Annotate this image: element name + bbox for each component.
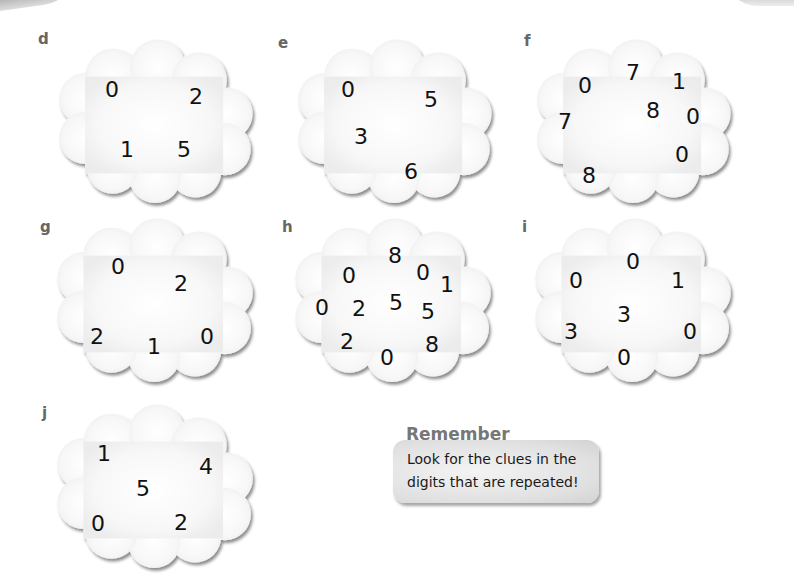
digit: 2 — [352, 298, 366, 320]
puzzle-i: i 0 0 1 3 3 0 0 — [510, 210, 764, 390]
cloud-shape — [510, 210, 764, 390]
digit: 0 — [675, 144, 689, 166]
puzzle-e: e 0 5 3 6 — [260, 0, 520, 210]
digit: 5 — [136, 478, 150, 500]
digit: 0 — [342, 265, 356, 287]
digit: 2 — [340, 331, 354, 353]
digit: 0 — [200, 326, 214, 348]
digit: 0 — [686, 106, 700, 128]
digit: 3 — [564, 321, 578, 343]
puzzle-f: f 7 0 1 8 0 7 0 8 — [510, 0, 764, 210]
digit: 8 — [582, 165, 596, 187]
digit: 7 — [626, 62, 640, 84]
digit: 1 — [97, 443, 111, 465]
cloud-shape — [0, 0, 260, 210]
digit: 0 — [105, 79, 119, 101]
digit: 0 — [683, 321, 697, 343]
digit: 8 — [388, 245, 402, 267]
digit: 5 — [424, 89, 438, 111]
puzzle-h: h 8 0 0 1 0 2 5 5 2 0 8 — [270, 210, 510, 390]
digit: 1 — [671, 270, 685, 292]
cloud-shape — [0, 210, 260, 390]
puzzle-j: j 1 4 5 0 2 — [0, 390, 260, 580]
digit: 0 — [341, 79, 355, 101]
digit: 5 — [177, 139, 191, 161]
digit: 3 — [354, 126, 368, 148]
digit: 0 — [578, 75, 592, 97]
digit: 3 — [617, 304, 631, 326]
digit: 1 — [120, 139, 134, 161]
digit: 8 — [425, 334, 439, 356]
remember-title: Remember — [406, 424, 510, 444]
digit: 0 — [617, 347, 631, 369]
digit: 1 — [672, 71, 686, 93]
digit: 0 — [626, 251, 640, 273]
digit: 2 — [174, 273, 188, 295]
digit: 0 — [416, 262, 430, 284]
digit: 0 — [91, 513, 105, 535]
digit: 2 — [90, 326, 104, 348]
digit: 1 — [147, 336, 161, 358]
remember-text: Look for the clues in the digits that ar… — [407, 448, 597, 494]
digit: 4 — [199, 456, 213, 478]
digit: 6 — [404, 161, 418, 183]
puzzle-d: d 0 2 1 5 — [0, 0, 260, 210]
puzzle-g: g 0 2 2 1 0 — [0, 210, 260, 390]
digit: 0 — [569, 270, 583, 292]
digit: 1 — [440, 274, 454, 296]
cloud-shape — [510, 0, 764, 210]
digit: 0 — [380, 347, 394, 369]
digit: 5 — [389, 292, 403, 314]
digit: 7 — [558, 111, 572, 133]
digit: 8 — [646, 100, 660, 122]
cloud-shape — [260, 0, 520, 210]
cloud-shape — [0, 390, 260, 580]
digit: 2 — [189, 86, 203, 108]
digit: 0 — [111, 256, 125, 278]
digit: 5 — [421, 301, 435, 323]
digit: 0 — [315, 297, 329, 319]
digit: 2 — [174, 512, 188, 534]
